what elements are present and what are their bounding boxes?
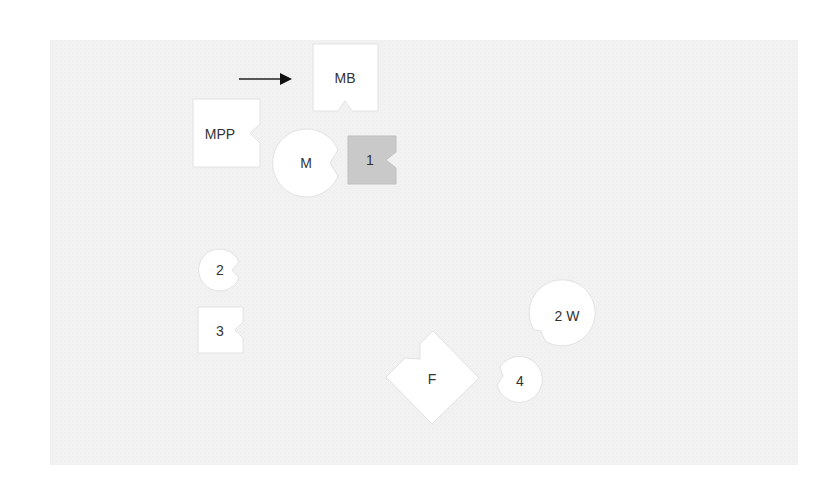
diagram-canvas: MB MPP M 1 2 3 F 4 2 W — [0, 0, 832, 490]
node-label: 3 — [216, 323, 224, 339]
node-label: M — [300, 155, 312, 171]
node-label: MPP — [205, 126, 235, 142]
node-label: 1 — [366, 152, 374, 168]
node-label: F — [428, 371, 437, 387]
node-label: MB — [335, 70, 356, 86]
node-label: 4 — [516, 373, 524, 389]
node-mb[interactable]: MB — [313, 44, 378, 111]
node-m[interactable]: M — [273, 129, 338, 197]
node-4[interactable]: 4 — [497, 356, 542, 402]
node-mpp[interactable]: MPP — [193, 99, 260, 167]
node-label: 2 — [216, 262, 224, 278]
node-label: 2 W — [555, 308, 581, 324]
